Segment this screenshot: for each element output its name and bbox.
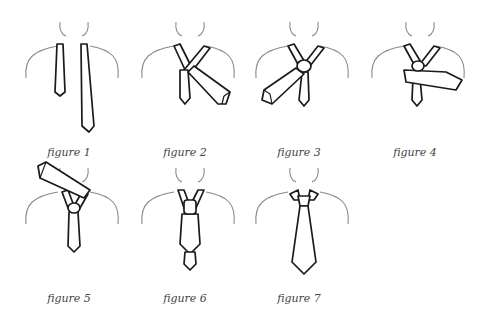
figure-4: figure 4 (360, 8, 470, 158)
figure-3: figure 3 (244, 8, 354, 158)
figure-5: figure 5 (14, 154, 124, 304)
figure-caption: figure 5 (14, 292, 124, 305)
figure-caption: figure 4 (360, 146, 470, 159)
tie-step-4-illustration (360, 8, 470, 138)
figure-7: figure 7 (244, 154, 354, 304)
figure-caption: figure 6 (130, 292, 240, 305)
figure-2: figure 2 (130, 8, 240, 158)
figure-6: figure 6 (130, 154, 240, 304)
figure-1: figure 1 (14, 8, 124, 158)
tie-step-3-illustration (244, 8, 354, 138)
figure-caption: figure 7 (244, 292, 354, 305)
tie-step-2-illustration (130, 8, 240, 138)
tie-step-5-illustration (14, 154, 124, 284)
tie-step-1-illustration (14, 8, 124, 138)
tie-step-6-illustration (130, 154, 240, 284)
tie-step-7-illustration (244, 154, 354, 284)
